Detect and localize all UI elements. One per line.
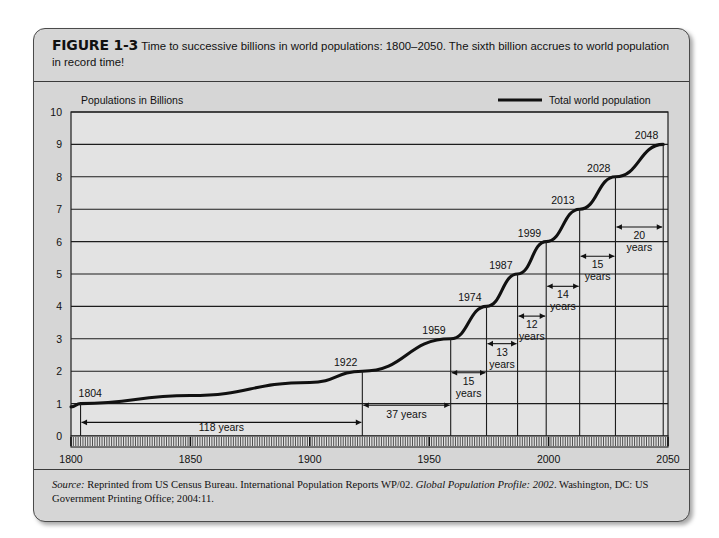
x-axis-tick-1800: 1800 <box>59 453 83 465</box>
interval-label-15-years: years <box>585 270 611 282</box>
interval-label-15-years: 15 <box>592 258 604 270</box>
y-axis-tick-2: 2 <box>56 365 62 377</box>
population-line-chart: 012345678910Populations in BillionsTotal… <box>34 82 690 471</box>
milestone-label-1922: 1922 <box>334 356 358 368</box>
y-axis-tick-9: 9 <box>56 138 62 150</box>
interval-label-20-years: 20 <box>634 229 646 241</box>
y-axis-tick-4: 4 <box>56 300 62 312</box>
interval-label-15-years: years <box>456 387 482 399</box>
legend-label-total-world-population: Total world population <box>549 94 651 106</box>
chart-region: 012345678910Populations in BillionsTotal… <box>34 82 689 469</box>
interval-label-118-years: 118 years <box>199 421 244 433</box>
source-text-part1: Reprinted from US Census Bureau. Interna… <box>85 479 416 490</box>
interval-label-13-years: 13 <box>496 346 508 358</box>
plot-header-label: Populations in Billions <box>81 94 183 106</box>
x-axis-tick-2050: 2050 <box>656 453 680 465</box>
y-axis-tick-10: 10 <box>50 106 62 118</box>
source-label: Source: <box>52 479 85 490</box>
milestone-label-1959: 1959 <box>422 324 446 336</box>
milestone-label-1999: 1999 <box>518 227 542 239</box>
milestone-label-2028: 2028 <box>587 162 611 174</box>
milestone-label-2048: 2048 <box>635 129 659 141</box>
y-axis-tick-3: 3 <box>56 333 62 345</box>
interval-label-14-years: years <box>550 300 576 312</box>
x-axis-tick-2000: 2000 <box>537 453 561 465</box>
y-axis-tick-7: 7 <box>56 203 62 215</box>
y-axis-tick-6: 6 <box>56 236 62 248</box>
y-axis-tick-5: 5 <box>56 268 62 280</box>
interval-label-13-years: years <box>489 358 515 370</box>
milestone-label-1987: 1987 <box>489 259 513 271</box>
source-title-italic: Global Population Profile: 2002 <box>416 479 554 490</box>
interval-label-37-years: 37 years <box>386 408 426 420</box>
interval-label-12-years: 12 <box>526 318 538 330</box>
figure-source-note: Source: Reprinted from US Census Bureau.… <box>34 469 689 521</box>
figure-number: FIGURE 1-3 <box>52 37 138 53</box>
y-axis-tick-8: 8 <box>56 171 62 183</box>
x-axis-tick-1900: 1900 <box>298 453 322 465</box>
x-axis-tick-1850: 1850 <box>179 453 203 465</box>
y-axis-tick-0: 0 <box>56 430 62 442</box>
y-axis-tick-1: 1 <box>56 398 62 410</box>
figure-caption-text: Time to successive billions in world pop… <box>52 40 669 68</box>
interval-label-20-years: years <box>627 241 653 253</box>
milestone-label-1974: 1974 <box>458 291 482 303</box>
figure-panel: FIGURE 1-3 Time to successive billions i… <box>33 28 690 522</box>
x-axis-tick-1950: 1950 <box>418 453 442 465</box>
interval-label-15-years: 15 <box>463 375 475 387</box>
figure-caption: FIGURE 1-3 Time to successive billions i… <box>34 29 689 82</box>
interval-label-12-years: years <box>519 330 545 342</box>
milestone-label-1804: 1804 <box>79 387 103 399</box>
interval-label-14-years: 14 <box>557 288 569 300</box>
milestone-label-2013: 2013 <box>551 194 575 206</box>
